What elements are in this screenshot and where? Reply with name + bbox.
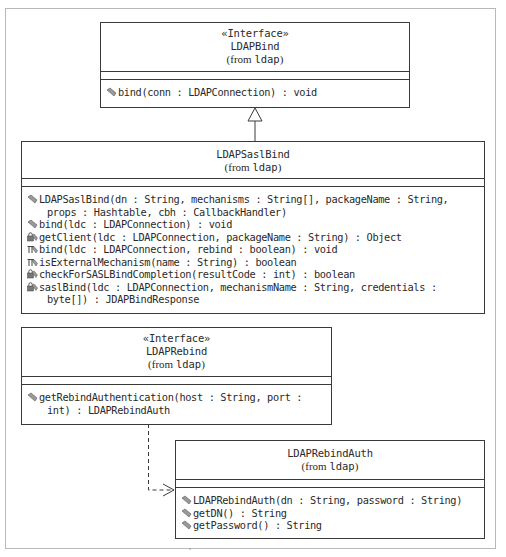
package-label: (from ldap) bbox=[176, 460, 484, 473]
operation-row[interactable]: getRebindAuthentication(host : String, p… bbox=[27, 391, 327, 416]
public-method-icon bbox=[27, 392, 38, 402]
class-ldaprebind[interactable]: «Interface» LDAPRebind (from ldap) getRe… bbox=[21, 327, 332, 425]
class-header: LDAPSaslBind (from ldap) bbox=[22, 142, 484, 179]
attributes-compartment bbox=[22, 376, 331, 385]
package-label: (from ldap) bbox=[101, 53, 409, 66]
protected-method-icon bbox=[27, 244, 38, 254]
public-method-icon bbox=[27, 194, 38, 204]
operation-row[interactable]: getClient(ldc : LDAPConnection, packageN… bbox=[27, 231, 480, 244]
operations-compartment: LDAPSaslBind(dn : String, mechanisms : S… bbox=[22, 187, 484, 313]
operation-row[interactable]: checkForSASLBindCompletion(resultCode : … bbox=[27, 268, 480, 281]
public-method-icon bbox=[181, 520, 192, 530]
class-name: LDAPRebind bbox=[22, 345, 331, 358]
private-method-icon bbox=[27, 282, 38, 292]
class-name: LDAPSaslBind bbox=[22, 148, 484, 161]
operation-row[interactable]: LDAPRebindAuth(dn : String, password : S… bbox=[181, 494, 480, 507]
operation-row[interactable]: bind(conn : LDAPConnection) : void bbox=[106, 86, 405, 99]
class-name: LDAPBind bbox=[101, 40, 409, 53]
class-header: LDAPRebindAuth (from ldap) bbox=[176, 441, 484, 480]
public-method-icon bbox=[106, 87, 117, 97]
class-ldapsaslbind[interactable]: LDAPSaslBind (from ldap) LDAPSaslBind(dn… bbox=[21, 141, 485, 314]
stereotype-label: «Interface» bbox=[101, 27, 409, 40]
operation-row[interactable]: getDN() : String bbox=[181, 507, 480, 520]
attributes-compartment bbox=[176, 479, 484, 488]
class-ldaprebindauth[interactable]: LDAPRebindAuth (from ldap) LDAPRebindAut… bbox=[175, 440, 485, 539]
private-method-icon bbox=[27, 269, 38, 279]
class-header: «Interface» LDAPBind (from ldap) bbox=[101, 23, 409, 72]
stray-dot bbox=[189, 548, 190, 549]
attributes-compartment bbox=[101, 71, 409, 80]
operation-row[interactable]: LDAPSaslBind(dn : String, mechanisms : S… bbox=[27, 193, 480, 218]
operations-compartment: bind(conn : LDAPConnection) : void bbox=[101, 80, 409, 107]
operations-compartment: LDAPRebindAuth(dn : String, password : S… bbox=[176, 488, 484, 538]
protected-method-icon bbox=[27, 257, 38, 267]
public-method-icon bbox=[181, 508, 192, 518]
public-method-icon bbox=[181, 495, 192, 505]
attributes-compartment bbox=[22, 178, 484, 187]
stereotype-label: «Interface» bbox=[22, 332, 331, 345]
operations-compartment: getRebindAuthentication(host : String, p… bbox=[22, 385, 331, 424]
operation-row[interactable]: saslBind(ldc : LDAPConnection, mechanism… bbox=[27, 281, 480, 306]
generalization-arrow bbox=[248, 108, 262, 141]
package-label: (from ldap) bbox=[22, 161, 484, 174]
public-method-icon bbox=[27, 219, 38, 229]
operation-row[interactable]: isExternalMechanism(name : String) : boo… bbox=[27, 256, 480, 269]
operation-row[interactable]: bind(ldc : LDAPConnection, rebind : bool… bbox=[27, 243, 480, 256]
class-name: LDAPRebindAuth bbox=[176, 447, 484, 460]
class-header: «Interface» LDAPRebind (from ldap) bbox=[22, 328, 331, 377]
operation-row[interactable]: getPassword() : String bbox=[181, 519, 480, 532]
class-ldapbind[interactable]: «Interface» LDAPBind (from ldap) bind(co… bbox=[100, 22, 410, 108]
package-label: (from ldap) bbox=[22, 358, 331, 371]
private-method-icon bbox=[27, 232, 38, 242]
dependency-arrow bbox=[149, 424, 175, 496]
operation-row[interactable]: bind(ldc : LDAPConnection) : void bbox=[27, 218, 480, 231]
